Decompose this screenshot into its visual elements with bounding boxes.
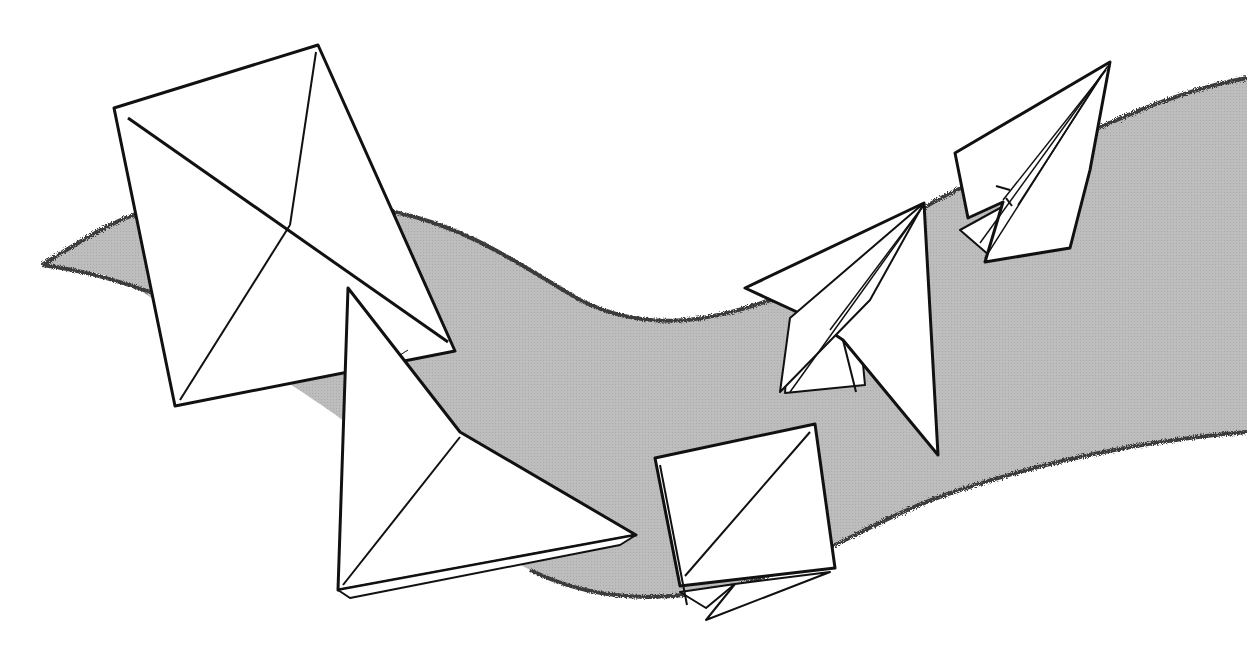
origami-illustration (0, 0, 1247, 652)
illustration-canvas: Origami folding sequence (0, 0, 1247, 652)
